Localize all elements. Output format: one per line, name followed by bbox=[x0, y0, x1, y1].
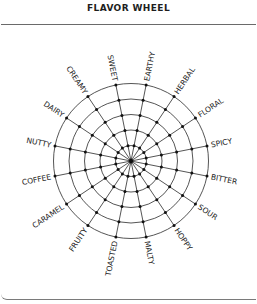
node-dot bbox=[120, 205, 123, 208]
node-dot bbox=[65, 203, 68, 206]
node-dot bbox=[95, 211, 98, 214]
node-dot bbox=[142, 99, 145, 102]
node-dot bbox=[126, 175, 129, 178]
node-dot bbox=[168, 185, 171, 188]
node-dot bbox=[123, 190, 126, 193]
label-earthy: EARTHY bbox=[142, 51, 157, 82]
label-bitter: BITTER bbox=[210, 172, 239, 186]
node-dot bbox=[117, 168, 120, 171]
node-dot bbox=[112, 185, 115, 188]
node-dot bbox=[145, 156, 148, 159]
node-dot bbox=[147, 134, 150, 137]
node-dot bbox=[78, 194, 81, 197]
node-dot bbox=[190, 147, 193, 150]
node-dot bbox=[104, 142, 107, 145]
node-dot bbox=[190, 172, 193, 175]
flavor-wheel-diagram: BITTERSOURHOPPYMALTYTOASTEDFRUITYCARAMEL… bbox=[0, 0, 257, 304]
node-dot bbox=[139, 205, 142, 208]
node-dot bbox=[84, 150, 87, 153]
node-dot bbox=[155, 177, 158, 180]
node-dot bbox=[99, 166, 102, 169]
node-dot bbox=[145, 236, 148, 239]
node-dot bbox=[142, 220, 145, 223]
label-sweet: SWEET bbox=[106, 54, 120, 82]
node-dot bbox=[194, 203, 197, 206]
node-dot bbox=[142, 151, 145, 154]
node-dot bbox=[86, 224, 89, 227]
node-dot bbox=[145, 83, 148, 86]
node-dot bbox=[155, 121, 158, 124]
node-dot bbox=[181, 194, 184, 197]
node-dot bbox=[121, 172, 124, 175]
node-dot bbox=[112, 134, 115, 137]
node-dot bbox=[91, 185, 94, 188]
label-toasted: TOASTED bbox=[104, 240, 120, 278]
node-dot bbox=[133, 175, 136, 178]
node-dot bbox=[181, 125, 184, 128]
node-dot bbox=[69, 147, 72, 150]
node-dot bbox=[120, 114, 123, 117]
node-dot bbox=[206, 175, 209, 178]
node-dot bbox=[78, 125, 81, 128]
node-dot bbox=[155, 142, 158, 145]
node-dot bbox=[99, 153, 102, 156]
wheel-grid bbox=[53, 83, 208, 238]
node-dot bbox=[104, 198, 107, 201]
node-dot bbox=[114, 83, 117, 86]
node-dot bbox=[104, 177, 107, 180]
node-dot bbox=[136, 129, 139, 132]
node-dot bbox=[142, 168, 145, 171]
node-dot bbox=[53, 175, 56, 178]
node-dot bbox=[123, 129, 126, 132]
node-dot bbox=[121, 147, 124, 150]
node-dot bbox=[168, 134, 171, 137]
node-dot bbox=[138, 147, 141, 150]
node-dot bbox=[114, 163, 117, 166]
node-dot bbox=[95, 108, 98, 111]
label-creamy: CREAMY bbox=[64, 64, 89, 96]
node-dot bbox=[65, 116, 68, 119]
node-dot bbox=[84, 169, 87, 172]
node-dot bbox=[117, 151, 120, 154]
node-dot bbox=[117, 99, 120, 102]
node-dot bbox=[164, 108, 167, 111]
node-dot bbox=[173, 95, 176, 98]
node-dot bbox=[91, 134, 94, 137]
center-hub bbox=[129, 159, 133, 163]
node-dot bbox=[138, 172, 141, 175]
node-dot bbox=[175, 150, 178, 153]
label-spicy: SPICY bbox=[210, 136, 233, 149]
label-malty: MALTY bbox=[142, 240, 156, 266]
label-fruity: FRUITY bbox=[67, 226, 90, 254]
node-dot bbox=[173, 224, 176, 227]
label-sour: SOUR bbox=[196, 203, 220, 223]
node-dot bbox=[133, 144, 136, 147]
label-coffee: COFFEE bbox=[21, 172, 52, 187]
node-dot bbox=[160, 166, 163, 169]
node-dot bbox=[126, 144, 129, 147]
node-dot bbox=[164, 211, 167, 214]
node-dot bbox=[206, 144, 209, 147]
node-dot bbox=[175, 169, 178, 172]
node-dot bbox=[114, 236, 117, 239]
node-dot bbox=[104, 121, 107, 124]
node-dot bbox=[155, 198, 158, 201]
node-dot bbox=[69, 172, 72, 175]
node-dot bbox=[86, 95, 89, 98]
node-dot bbox=[160, 153, 163, 156]
node-dot bbox=[194, 116, 197, 119]
label-nutty: NUTTY bbox=[26, 136, 53, 150]
node-dot bbox=[139, 114, 142, 117]
label-caramel: CARAMEL bbox=[31, 202, 67, 230]
label-floral: FLORAL bbox=[196, 96, 226, 120]
label-hoppy: HOPPY bbox=[173, 226, 195, 252]
label-herbal: HERBAL bbox=[173, 65, 198, 96]
node-dot bbox=[147, 185, 150, 188]
node-dot bbox=[117, 220, 120, 223]
node-dot bbox=[136, 190, 139, 193]
node-dot bbox=[145, 163, 148, 166]
node-dot bbox=[114, 156, 117, 159]
node-dot bbox=[53, 144, 56, 147]
label-dairy: DAIRY bbox=[42, 99, 66, 119]
